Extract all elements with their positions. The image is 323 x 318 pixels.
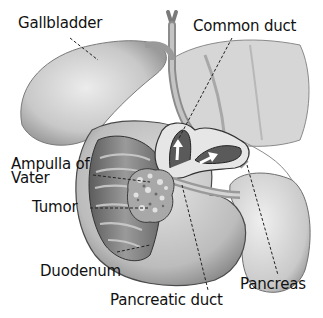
label-duodenum: Duodenum <box>40 264 121 279</box>
label-common-duct: Common duct <box>193 19 296 34</box>
label-pancreas: Pancreas <box>240 277 306 292</box>
anatomy-diagram: Gallbladder Common duct Ampulla of Vater… <box>0 0 323 318</box>
label-tumor: Tumor <box>32 200 77 215</box>
label-gallbladder: Gallbladder <box>18 16 102 31</box>
tumor-mass <box>127 169 174 223</box>
label-ampulla-of-vater: Ampulla of Vater <box>11 157 90 185</box>
label-pancreatic-duct: Pancreatic duct <box>110 293 223 308</box>
